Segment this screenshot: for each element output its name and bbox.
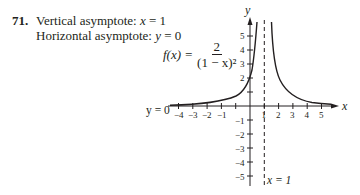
svg-text:2: 2: [276, 110, 281, 120]
y-tick-labels-negative: −1 −2 −3 −4 −5: [235, 116, 245, 182]
svg-text:1: 1: [262, 110, 267, 120]
svg-text:5: 5: [240, 31, 245, 41]
svg-text:−1: −1: [235, 116, 245, 126]
y-axis-label: y: [244, 3, 251, 17]
svg-text:−4: −4: [174, 110, 184, 120]
svg-text:−2: −2: [235, 130, 245, 140]
x-axis-label: x: [341, 99, 348, 113]
svg-text:−3: −3: [235, 144, 245, 154]
svg-text:5: 5: [319, 110, 324, 120]
svg-text:3: 3: [240, 59, 245, 69]
svg-text:4: 4: [240, 45, 245, 55]
svg-text:3: 3: [290, 110, 295, 120]
x-tick-labels: −4 −3 −2 −1 1 2 3 4 5: [174, 110, 324, 120]
svg-text:2: 2: [240, 73, 245, 83]
vertical-asymptote-annotation: x = 1: [266, 174, 291, 186]
y-axis-arrow-icon: [248, 17, 253, 25]
function-graph: y x −4 −3 −2 −1 1 2 3 4 5 5 4 3 2 −1 −2 …: [0, 0, 360, 195]
svg-text:4: 4: [305, 110, 310, 120]
svg-text:−4: −4: [235, 158, 245, 168]
svg-text:−5: −5: [235, 172, 245, 182]
svg-text:−3: −3: [188, 110, 198, 120]
horizontal-asymptote-annotation: y = 0: [146, 104, 170, 117]
y-tick-labels-positive: 5 4 3 2: [240, 31, 245, 83]
svg-text:−2: −2: [202, 110, 212, 120]
x-axis-arrow-icon: [331, 104, 339, 109]
right-branch-curve: [272, 22, 332, 104]
svg-text:−1: −1: [217, 110, 227, 120]
